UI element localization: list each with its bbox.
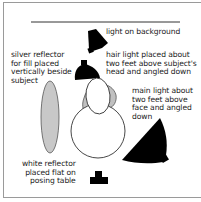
white-reflector-label: white reflector placed flat on posing ta… bbox=[22, 160, 76, 186]
silver-reflector-label: silver reflector for fill placed vertica… bbox=[11, 51, 72, 85]
background-light-icon bbox=[87, 29, 108, 54]
hair-light-label: hair light placed about two feet above s… bbox=[106, 51, 197, 77]
main-light-icon bbox=[122, 118, 169, 163]
hair-light-icon bbox=[75, 60, 100, 80]
silver-reflector-icon bbox=[41, 81, 59, 153]
main-light-label: main light about two feet above face and… bbox=[132, 87, 193, 121]
white-reflector-icon bbox=[90, 171, 108, 184]
background-light-label: light on background bbox=[106, 28, 180, 37]
